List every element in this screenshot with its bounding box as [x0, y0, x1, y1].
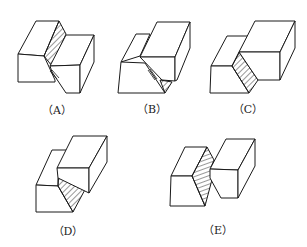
figure-c-drawing: [210, 21, 295, 93]
figure-d-drawing: [36, 136, 107, 212]
figure-b-label: （B）: [137, 100, 167, 116]
figure-e-label: （E）: [203, 221, 233, 237]
figure-d-label: （D）: [53, 222, 84, 238]
figure-e-right-block-front: [210, 169, 238, 198]
figure-c-label: （C）: [233, 100, 263, 116]
figure-a-label: （A）: [42, 101, 72, 117]
figure-e-drawing: [170, 139, 255, 206]
figure-b-drawing: [118, 22, 190, 93]
diagram-canvas: [0, 0, 307, 247]
figure-a-drawing: [18, 21, 94, 93]
